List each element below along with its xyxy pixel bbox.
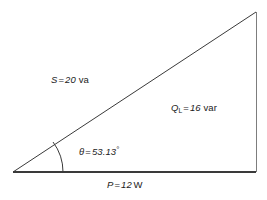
- reactive-power-label: QL=16 var: [171, 102, 217, 116]
- real-power-value: 12: [121, 179, 132, 190]
- triangle-drawing: [0, 0, 267, 200]
- real-power-unit: W: [133, 179, 142, 190]
- phase-angle-equals: =: [84, 146, 92, 157]
- real-power-equals: =: [113, 179, 121, 190]
- reactive-power-symbol: Q: [171, 102, 179, 113]
- apparent-power-label: S=20 va: [51, 74, 89, 85]
- power-triangle-figure: S=20 va QL=16 var θ=53.13° P=12W: [0, 0, 267, 200]
- real-power-label: P=12W: [107, 179, 142, 190]
- reactive-power-equals: =: [182, 102, 190, 113]
- apparent-power-equals: =: [57, 74, 65, 85]
- reactive-power-unit: var: [203, 102, 217, 113]
- degree-icon: °: [116, 145, 119, 154]
- apparent-power-hypotenuse: [13, 12, 256, 172]
- reactive-power-value: 16: [190, 102, 201, 113]
- phase-angle-arc: [53, 142, 63, 172]
- apparent-power-value: 20: [65, 74, 76, 85]
- phase-angle-value: 53.13: [92, 146, 116, 157]
- apparent-power-unit: va: [79, 74, 89, 85]
- phase-angle-label: θ=53.13°: [79, 144, 120, 157]
